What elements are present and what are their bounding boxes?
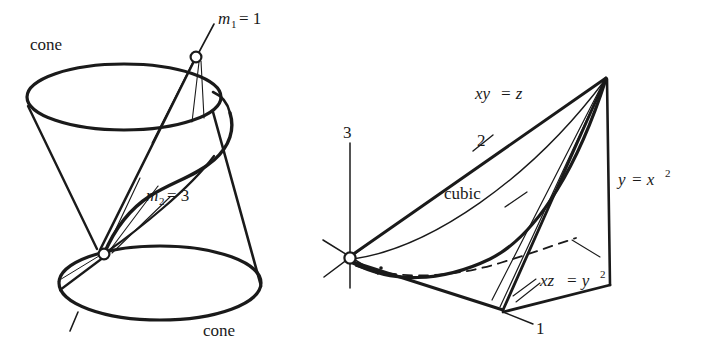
cubic-leader: [505, 192, 527, 207]
m2-variable: m: [146, 186, 158, 205]
xz-variable: xz: [539, 271, 555, 290]
cubic-label: cubic: [444, 184, 481, 203]
cubic-curve: [353, 79, 606, 278]
m1-variable: m: [218, 9, 230, 28]
edge-point1-to-right-base: [503, 285, 610, 312]
xz-equation: = y: [566, 271, 590, 290]
diagram-canvas: cone cone m 1 = 1 m 2 = 3: [0, 0, 705, 356]
m1-equation: = 1: [239, 9, 261, 28]
upper-vertex-node: [191, 52, 202, 63]
inner-ruling-apex-b: [492, 81, 604, 300]
m2-subscript: 2: [159, 195, 165, 207]
left-figure-double-cone: [27, 24, 261, 331]
cone-left-slant-lower: [60, 257, 104, 290]
upper-node-ray-a: [152, 60, 194, 143]
m1-label: m 1 = 1: [218, 9, 261, 30]
edge-origin-to-point1: [353, 262, 503, 310]
cone-top-label: cone: [30, 35, 62, 54]
y-x2-superscript: 2: [665, 167, 671, 179]
cone-bottom-label: cone: [203, 321, 235, 340]
xy-equals-z-label: xy = z: [474, 84, 523, 103]
y-x2-equation: = x: [631, 170, 655, 189]
edge-apex-vertical-right: [607, 79, 610, 285]
axis-1-label: 1: [536, 319, 545, 338]
bottom-tick-mark: [70, 312, 78, 331]
upper-node-ray-c: [201, 61, 204, 118]
m2-equation: = 3: [167, 186, 189, 205]
m1-leader-line: [198, 24, 214, 54]
m1-subscript: 1: [231, 18, 237, 30]
axis-3-label: 3: [343, 123, 352, 142]
xy-equation: = z: [500, 84, 523, 103]
y-x2-variable: y: [616, 170, 626, 189]
xy-variable: xy: [474, 84, 491, 103]
xz-equals-y2-label: xz = y 2: [539, 268, 606, 290]
xz-y2-leader-a: [572, 240, 600, 257]
upper-node-ray-b: [192, 62, 199, 122]
axis-2-label: 2: [477, 131, 486, 150]
xz-y2-leader-c: [516, 283, 540, 302]
label-1-leader: [503, 312, 533, 324]
lower-cone-rim-ellipse: [59, 246, 261, 320]
y-equals-x2-label: y = x 2: [616, 167, 671, 189]
lower-vertex-node: [99, 249, 110, 260]
diagram-page: cone cone m 1 = 1 m 2 = 3: [0, 0, 705, 356]
xz-y2-superscript: 2: [600, 268, 606, 280]
edge-marker-dot: [379, 266, 383, 270]
m2-label: m 2 = 3: [146, 186, 189, 207]
origin-node: [344, 252, 355, 263]
